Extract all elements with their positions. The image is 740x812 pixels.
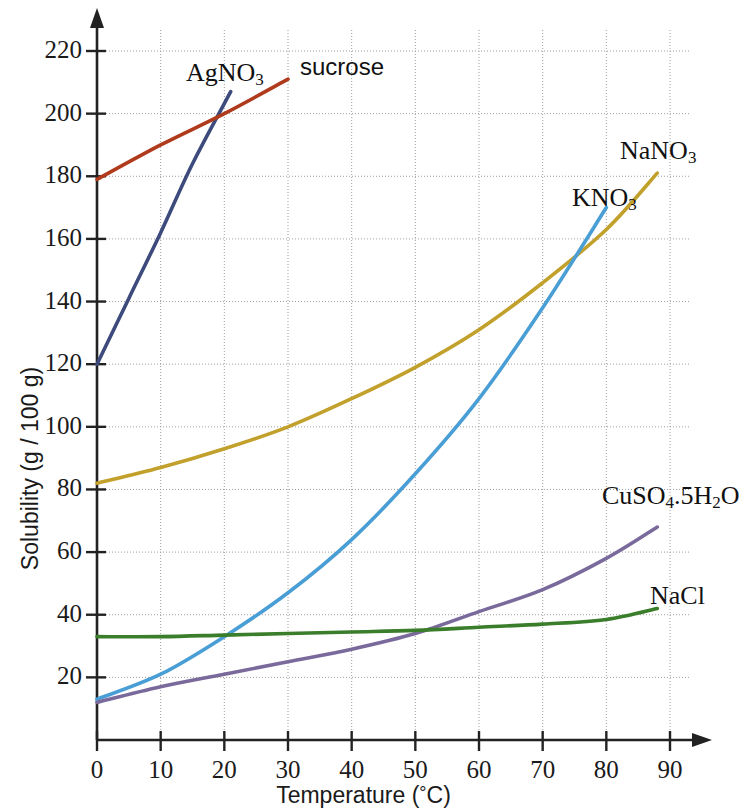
x-axis-title-end: C) [427, 782, 451, 808]
AgNO3-label: AgNO3 [186, 58, 264, 90]
data-curves [97, 79, 657, 702]
curve-NaCl [97, 608, 657, 636]
x-tick-label-40: 40 [322, 756, 382, 784]
KNO3-label: KNO3 [572, 183, 637, 215]
x-tick-label-10: 10 [131, 756, 191, 784]
y-tick-label-160: 160 [12, 224, 82, 252]
y-tick-label-140: 140 [12, 287, 82, 315]
y-tick-label-200: 200 [12, 99, 82, 127]
x-tick-label-60: 60 [449, 756, 509, 784]
sucrose-label: sucrose [300, 53, 384, 81]
y-tick-label-180: 180 [12, 161, 82, 189]
x-tick-label-90: 90 [640, 756, 700, 784]
curve-NaNO3 [97, 173, 657, 483]
x-tick-label-0: 0 [67, 756, 127, 784]
x-tick-label-30: 30 [258, 756, 318, 784]
x-axis-title-text: Temperature ( [276, 782, 419, 808]
x-tick-label-70: 70 [513, 756, 573, 784]
CuSO4-label: CuSO4.5H2O [602, 481, 740, 513]
gridlines [97, 30, 690, 740]
NaCl-label: NaCl [650, 581, 705, 611]
x-axis-title: Temperature (°C) [0, 782, 727, 809]
curve-AgNO3 [97, 92, 231, 364]
x-tick-label-80: 80 [576, 756, 636, 784]
degree-symbol: ° [419, 783, 426, 803]
x-tick-label-20: 20 [194, 756, 254, 784]
y-axis-title: Solubility (g / 100 g) [17, 319, 44, 619]
y-tick-label-220: 220 [12, 36, 82, 64]
y-tick-label-20: 20 [12, 662, 82, 690]
NaNO3-label: NaNO3 [620, 136, 696, 168]
x-tick-label-50: 50 [385, 756, 445, 784]
